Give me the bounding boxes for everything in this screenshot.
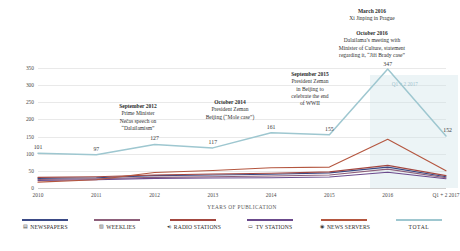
data-label-total: 161 bbox=[267, 124, 276, 130]
annotation-sep-2012: September 2012 Prime MinisterNečas speec… bbox=[93, 103, 183, 132]
x-tick-label: Q1 + 2 2017 bbox=[432, 192, 459, 198]
x-tick-label: 2010 bbox=[33, 192, 44, 198]
annotation-title: September 2012 bbox=[93, 103, 183, 110]
x-tick-label: 2011 bbox=[91, 192, 102, 198]
y-tick-label: 100 bbox=[2, 151, 34, 157]
x-axis-title: YEARS OF PUBLICATION bbox=[38, 204, 446, 210]
legend-label: WEEKLIES bbox=[106, 224, 135, 230]
gridline bbox=[38, 188, 446, 189]
y-tick-label: 0 bbox=[2, 185, 34, 191]
legend-item-weeklies[interactable]: ▨WEEKLIES bbox=[94, 219, 140, 230]
annotation-oct-2016: October 2016 Dalailama’s meeting withMin… bbox=[294, 30, 450, 59]
annotation-oct-2014: October 2014 President ZemanBeijing (“Mo… bbox=[178, 99, 282, 121]
annotation-body: Dalailama’s meeting withMinister of Cult… bbox=[294, 37, 450, 59]
legend-row: ▤NEWSPAPERS bbox=[22, 224, 67, 230]
legend-item-newspapers[interactable]: ▤NEWSPAPERS bbox=[22, 219, 68, 230]
annotation-title: October 2016 bbox=[294, 30, 450, 37]
annotation-mar-2016: March 2016 Xi Jinping in Prague bbox=[306, 8, 438, 23]
legend-item-tv-stations[interactable]: ▭TV STATIONS bbox=[247, 219, 293, 230]
legend-row: ◉NEWS SERVERS bbox=[319, 224, 370, 230]
legend-label: RADIO STATIONS bbox=[174, 224, 221, 230]
legend-label: NEWSPAPERS bbox=[30, 224, 67, 230]
legend-label: TV STATIONS bbox=[256, 224, 292, 230]
y-tick-label: 50 bbox=[2, 168, 34, 174]
legend-row: ▭TV STATIONS bbox=[248, 224, 292, 230]
legend-label: TOTAL bbox=[409, 224, 430, 230]
radio-icon: ◂) bbox=[166, 224, 172, 230]
legend-item-news-servers[interactable]: ◉NEWS SERVERS bbox=[319, 219, 370, 230]
x-tick-label: 2013 bbox=[207, 192, 218, 198]
data-label-total: 155 bbox=[325, 126, 334, 132]
newspaper-icon: ▤ bbox=[22, 224, 28, 230]
data-label-total: 127 bbox=[150, 135, 159, 141]
data-label-total: 101 bbox=[34, 144, 43, 150]
annotation-title: September 2015 bbox=[276, 71, 344, 78]
y-tick-label: 250 bbox=[2, 99, 34, 105]
x-tick-label: 2016 bbox=[382, 192, 393, 198]
legend-row: ◂)RADIO STATIONS bbox=[166, 224, 221, 230]
legend-item-total[interactable]: TOTAL bbox=[396, 219, 442, 230]
data-label-total: 97 bbox=[93, 146, 99, 152]
weeklies-icon: ▨ bbox=[98, 224, 104, 230]
y-tick-label: 350 bbox=[2, 65, 34, 71]
x-tick-label: 2012 bbox=[149, 192, 160, 198]
legend-swatch bbox=[396, 219, 442, 221]
y-tick-label: 200 bbox=[2, 116, 34, 122]
chart-legend: ▤NEWSPAPERS▨WEEKLIES◂)RADIO STATIONS▭TV … bbox=[22, 219, 442, 230]
legend-swatch bbox=[94, 219, 140, 221]
news-server-icon: ◉ bbox=[319, 224, 325, 230]
legend-label: NEWS SERVERS bbox=[327, 224, 370, 230]
legend-swatch bbox=[247, 219, 293, 221]
x-tick-label: 2015 bbox=[324, 192, 335, 198]
annotation-title: October 2014 bbox=[178, 99, 282, 106]
legend-swatch bbox=[321, 219, 367, 221]
y-tick-label: 300 bbox=[2, 82, 34, 88]
legend-swatch bbox=[170, 219, 216, 221]
annotation-body: Prime MinisterNečas speech on“Dalailamis… bbox=[93, 110, 183, 132]
tv-icon: ▭ bbox=[248, 224, 254, 230]
x-tick-label: 2014 bbox=[266, 192, 277, 198]
legend-item-radio-stations[interactable]: ◂)RADIO STATIONS bbox=[166, 219, 221, 230]
legend-row: ▨WEEKLIES bbox=[98, 224, 135, 230]
data-label-total: 152 bbox=[443, 127, 452, 133]
y-tick-label: 150 bbox=[2, 134, 34, 140]
annotation-body: President ZemanBeijing (“Mole case”) bbox=[178, 106, 282, 121]
annotation-sep-2015: September 2015 President Zemanin Beijing… bbox=[276, 71, 344, 107]
annotation-title: March 2016 bbox=[306, 8, 438, 15]
legend-row: TOTAL bbox=[409, 224, 430, 230]
annotation-body: President Zemanin Beijing tocelebrate th… bbox=[276, 78, 344, 107]
data-label-total: 117 bbox=[209, 139, 217, 145]
annotation-body: Xi Jinping in Prague bbox=[306, 15, 438, 22]
data-label-total: 347 bbox=[383, 61, 392, 67]
legend-swatch bbox=[22, 219, 68, 221]
